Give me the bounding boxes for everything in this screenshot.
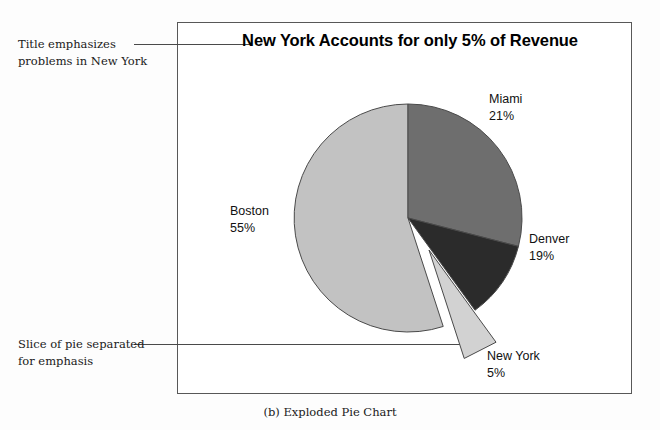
- slice-label-denver-name: Denver: [529, 231, 569, 248]
- slice-label-new-york-value: 5%: [487, 365, 540, 382]
- annotation-slice-note-line2: for emphasis: [18, 353, 145, 370]
- slice-label-new-york-name: New York: [487, 348, 540, 365]
- slice-label-boston-value: 55%: [230, 220, 269, 237]
- slice-label-miami: Miami 21%: [489, 91, 522, 125]
- annotation-title-note-line2: problems in New York: [18, 53, 147, 70]
- slice-label-denver: Denver 19%: [529, 231, 569, 265]
- figure-caption: (b) Exploded Pie Chart: [0, 405, 660, 419]
- chart-title: New York Accounts for only 5% of Revenue: [200, 31, 620, 50]
- slice-label-miami-name: Miami: [489, 91, 522, 108]
- slice-label-boston: Boston 55%: [230, 203, 269, 237]
- annotation-title-note-line1: Title emphasizes: [18, 36, 147, 53]
- slice-label-boston-name: Boston: [230, 203, 269, 220]
- slice-label-denver-value: 19%: [529, 248, 569, 265]
- figure-container: New York Accounts for only 5% of Revenue…: [0, 0, 660, 430]
- annotation-slice-note-line1: Slice of pie separated: [18, 336, 145, 353]
- slice-label-miami-value: 21%: [489, 108, 522, 125]
- annotation-slice-note: Slice of pie separated for emphasis: [18, 336, 145, 370]
- slice-label-new-york: New York 5%: [487, 348, 540, 382]
- annotation-title-note: Title emphasizes problems in New York: [18, 36, 147, 70]
- leader-line-slice: [134, 344, 481, 345]
